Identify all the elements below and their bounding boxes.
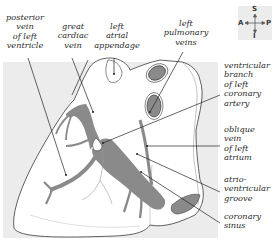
label-coronary-sinus: coronary sinus	[224, 212, 274, 231]
label-left-pulmonary-veins: left pulmonary veins	[160, 19, 212, 47]
label-posterior-vein-of-left-ventricle: posterior vein of left ventricle	[2, 13, 48, 51]
label-atrioventricular-groove: atrio- ventricular groove	[224, 175, 275, 203]
label-ventricular-branch-of-left-coronary-artery: ventricular branch of left coronary arte…	[224, 61, 275, 108]
compass-inferior: I	[253, 33, 256, 40]
compass-anterior: A	[238, 20, 243, 27]
heart-diagram: posterior vein of left ventricle great c…	[0, 0, 275, 245]
pulmonary-vein-lower	[147, 95, 161, 117]
compass-superior: S	[252, 6, 257, 13]
orientation-compass: S I A P	[238, 6, 272, 40]
compass-posterior: P	[266, 20, 271, 27]
label-oblique-vein-of-left-atrium: oblique vein of left atrium	[224, 125, 274, 163]
label-left-atrial-appendage: left atrial appendage	[92, 22, 142, 50]
label-great-cardiac-vein: great cardiac vein	[53, 22, 93, 50]
